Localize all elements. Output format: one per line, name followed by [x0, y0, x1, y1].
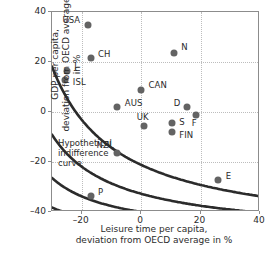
- x-axis-title-line-1: Leisure time per capita,: [46, 224, 262, 235]
- y-tick-mark--40: [48, 211, 51, 212]
- data-point-p: [87, 192, 94, 199]
- x-tick-mark-40: [259, 211, 260, 214]
- y-tick-label--20: –20: [22, 157, 46, 166]
- y-tick-label-20: 20: [22, 57, 46, 66]
- data-label-ch: CH: [98, 50, 111, 59]
- x-tick-mark-20: [200, 211, 201, 214]
- data-point-ch: [87, 55, 94, 62]
- data-point-usa: [84, 21, 91, 28]
- annotation-line-2: indifference: [58, 148, 112, 158]
- annotation-line-3: curve: [58, 158, 112, 168]
- annotation-line-1: Hypothetical: [58, 138, 112, 148]
- indifference-curve-2: [52, 178, 259, 211]
- y-tick-label--40: –40: [22, 207, 46, 216]
- data-point-f: [193, 111, 200, 118]
- y-tick-label-40: 40: [22, 7, 46, 16]
- data-point-fin: [169, 129, 176, 136]
- x-tick-mark--20: [81, 211, 82, 214]
- data-point-e: [215, 176, 222, 183]
- data-point-s: [169, 120, 176, 127]
- data-label-can: CAN: [149, 81, 167, 90]
- x-axis-title: Leisure time per capita, deviation from …: [46, 224, 262, 246]
- data-label-uk: UK: [137, 113, 149, 122]
- data-label-aus: AUS: [125, 99, 143, 108]
- annotation-hypothetical-indifference-curve: Hypothetical indifference curve: [58, 138, 112, 168]
- x-tick-mark-0: [140, 211, 141, 214]
- y-axis-title: GDP per capita, deviation from OECD aver…: [50, 0, 83, 135]
- data-label-s: S: [179, 118, 185, 127]
- data-label-p: P: [98, 188, 103, 197]
- y-tick-mark--20: [48, 161, 51, 162]
- indifference-curves: [52, 12, 259, 211]
- data-label-fin: FIN: [179, 131, 193, 140]
- data-point-can: [138, 86, 145, 93]
- data-point-uk: [141, 122, 148, 129]
- data-label-n: N: [181, 43, 187, 52]
- data-label-e: E: [226, 172, 231, 181]
- chart-figure: USACHJISLNCANAUSDFUKSFINNZLEP Hypothetic…: [0, 0, 272, 255]
- y-axis-title-line-1: GDP per capita,: [50, 0, 61, 135]
- data-point-n: [170, 50, 177, 57]
- x-axis-title-line-2: deviation from OECD average in %: [46, 235, 262, 246]
- y-axis-title-line-2: deviation from OECD average in %: [61, 0, 83, 135]
- data-label-d: D: [174, 99, 181, 108]
- data-label-f: F: [192, 119, 197, 128]
- y-tick-label-0: 0: [22, 107, 46, 116]
- data-point-nzl: [114, 150, 121, 157]
- data-point-d: [184, 104, 191, 111]
- data-point-aus: [114, 104, 121, 111]
